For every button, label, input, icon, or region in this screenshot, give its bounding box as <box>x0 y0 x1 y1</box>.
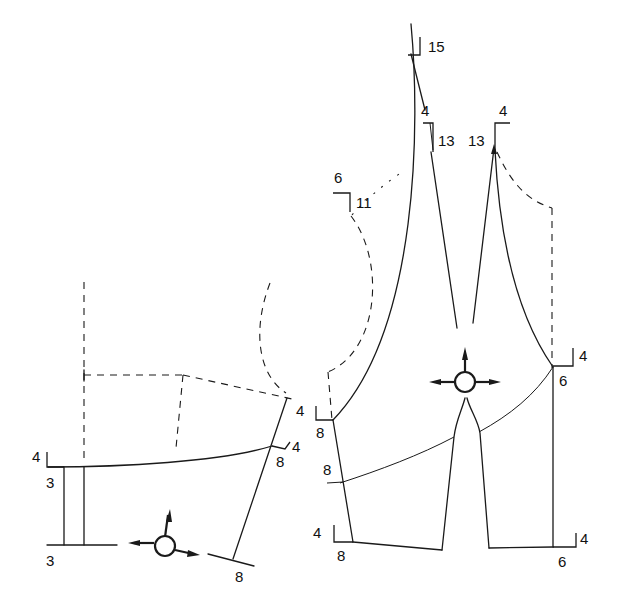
armhole-vertical-dashed <box>328 372 332 420</box>
bottom-edge-right <box>208 554 254 566</box>
label-left-upper-right-4: 4 <box>296 402 304 419</box>
label-side-lower-8: 8 <box>337 547 345 564</box>
corner-tick-top-left <box>47 452 64 467</box>
dart-apex-mark <box>491 144 497 154</box>
bottom-left <box>353 542 442 550</box>
label-dart-right-13: 13 <box>468 132 485 149</box>
armhole-curve-dashed <box>260 283 286 393</box>
neck-tick <box>333 193 350 212</box>
panel-left-inner <box>442 398 465 550</box>
pattern-diagram: 4 3 3 4 4 8 8 <box>0 0 627 607</box>
bottom-right <box>489 547 553 548</box>
label-neck-6: 6 <box>334 169 342 186</box>
label-side-mid-8: 8 <box>323 461 331 478</box>
corner-tick-left-upper <box>316 406 333 420</box>
armhole-curve-dashed <box>328 216 373 372</box>
panel-right-inner <box>467 398 489 548</box>
label-side-lower-4: 4 <box>313 524 321 541</box>
princess-curve-right <box>495 150 553 367</box>
label-right-upper-4: 4 <box>579 347 587 364</box>
label-left-top-4: 4 <box>32 448 40 465</box>
guide-slope-dashed <box>183 375 292 399</box>
label-right-upper-6: 6 <box>559 372 567 389</box>
left-back-piece: 4 3 3 4 4 8 8 <box>32 282 304 585</box>
label-left-bottom-8: 8 <box>235 568 243 585</box>
hip-line-left <box>340 437 454 483</box>
dart-right-leg <box>473 148 494 323</box>
dart-left-leg <box>431 152 457 328</box>
label-right-lower-4: 4 <box>580 530 588 547</box>
corner-tick-mid-right <box>272 442 290 449</box>
grain-compass-icon <box>128 509 200 557</box>
top-edge-curve <box>48 446 272 467</box>
label-neck-11: 11 <box>356 194 372 211</box>
guide-inner-vertical-dashed <box>176 375 183 448</box>
label-left-lower-3: 3 <box>46 552 54 569</box>
label-top-15: 15 <box>428 38 445 55</box>
label-right-lower-6: 6 <box>558 553 566 570</box>
label-left-mid-right-8: 8 <box>276 453 284 470</box>
label-left-mid-right-4: 4 <box>292 438 300 455</box>
side-edge <box>233 398 287 559</box>
label-dart-left-4: 4 <box>421 102 429 119</box>
grain-compass-icon <box>429 347 501 392</box>
hip-line-right <box>479 367 553 432</box>
shoulder-dashed-curve <box>497 152 552 208</box>
corner-tick-right-upper <box>553 348 573 366</box>
top-tick <box>408 37 420 55</box>
label-left-upper-3: 3 <box>46 474 54 491</box>
label-dart-right-4: 4 <box>499 102 507 119</box>
right-front-piece: 15 4 13 13 4 6 11 4 6 8 8 4 8 4 6 <box>313 24 588 570</box>
label-side-upper-8: 8 <box>316 424 324 441</box>
corner-tick-right-lower <box>553 533 576 547</box>
panel-left-outer <box>333 420 353 542</box>
dart-right-tick <box>495 123 510 150</box>
label-dart-left-13: 13 <box>438 132 455 149</box>
